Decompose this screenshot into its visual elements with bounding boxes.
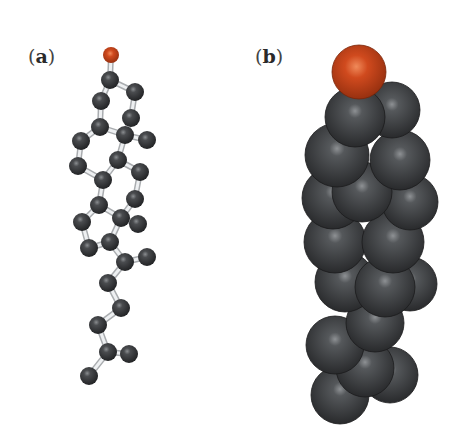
carbon-atom <box>73 213 91 231</box>
carbon-atom <box>112 299 130 317</box>
carbon-atom <box>112 209 130 227</box>
carbon-atom <box>109 151 127 169</box>
carbon-atom <box>138 248 156 266</box>
oxygen-atom <box>103 47 119 63</box>
carbon-atom <box>138 131 156 149</box>
carbon-atom <box>126 190 144 208</box>
carbon-atom <box>94 171 112 189</box>
carbon-atom <box>122 109 140 127</box>
carbon-atom <box>131 163 149 181</box>
carbon-atom <box>101 233 119 251</box>
carbon-atom <box>101 71 119 89</box>
molecule-figure <box>0 0 456 443</box>
carbon-atom <box>116 126 134 144</box>
carbon-atom <box>92 92 110 110</box>
carbon-atom <box>99 274 117 292</box>
ball-and-stick-model <box>69 47 156 385</box>
carbon-atom <box>90 196 108 214</box>
carbon-atom <box>80 367 98 385</box>
carbon-atom <box>120 345 138 363</box>
carbon-atom <box>89 316 107 334</box>
space-filling-model <box>302 45 438 424</box>
carbon-atom <box>91 118 109 136</box>
carbon-sphere <box>370 130 430 190</box>
carbon-atom <box>69 157 87 175</box>
carbon-atom <box>80 239 98 257</box>
carbon-atom <box>126 83 144 101</box>
oxygen-sphere <box>332 45 386 99</box>
carbon-atom <box>72 132 90 150</box>
carbon-atom <box>129 215 147 233</box>
carbon-atom <box>99 343 117 361</box>
carbon-atom <box>116 253 134 271</box>
